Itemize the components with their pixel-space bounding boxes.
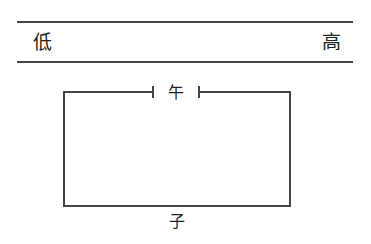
bottom-label: 子 [169, 214, 185, 230]
top-label: 午 [168, 85, 184, 101]
circuit-wire [64, 92, 290, 206]
circuit-loop [0, 0, 371, 244]
